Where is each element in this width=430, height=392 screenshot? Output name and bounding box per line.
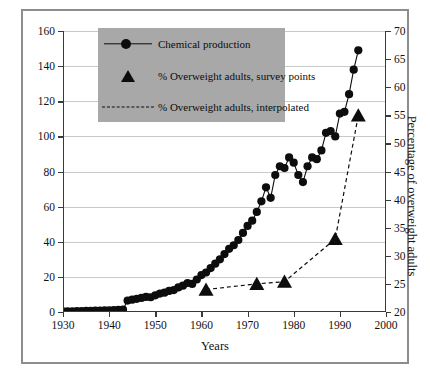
data-point-marker <box>354 46 362 54</box>
axis-tick-label: 60 <box>394 81 406 93</box>
data-point-marker <box>239 229 247 237</box>
legend-label-interpolated: % Overweight adults, interpolated <box>158 101 309 113</box>
axis-tick-label: 45 <box>394 166 406 178</box>
axis-tick-label: 20 <box>44 271 56 283</box>
data-point-marker <box>299 178 307 186</box>
axis-tick <box>58 277 63 278</box>
axis-tick <box>386 200 391 201</box>
axis-tick-label: 25 <box>394 278 406 290</box>
data-point-marker <box>253 208 261 216</box>
axis-tick-label: 30 <box>394 250 406 262</box>
figure-container: Synthetic Chemical Production (billion k… <box>0 0 430 392</box>
axis-tick <box>386 284 391 285</box>
legend-item-interpolated: % Overweight adults, interpolated <box>98 91 285 122</box>
axis-tick <box>386 312 387 317</box>
x-axis-line <box>63 311 386 312</box>
data-point-marker <box>262 183 270 191</box>
axis-tick-label: 65 <box>394 53 406 65</box>
axis-tick <box>58 136 63 137</box>
data-point-marker <box>290 159 298 167</box>
axis-tick <box>58 101 63 102</box>
data-point-marker <box>280 164 288 172</box>
data-point-marker <box>340 108 348 116</box>
legend-label-survey-points: % Overweight adults, survey points <box>158 70 315 82</box>
data-point-marker <box>234 236 242 244</box>
survey-point-marker <box>351 108 366 121</box>
axis-tick <box>109 312 110 317</box>
legend-item-chemical-production: Chemical production <box>98 28 285 59</box>
axis-tick <box>155 312 156 317</box>
axis-tick <box>294 312 295 317</box>
axis-tick <box>386 172 391 173</box>
legend-label-chemical-production: Chemical production <box>158 38 251 50</box>
legend: Chemical production % Overweight adults,… <box>98 28 285 122</box>
axis-tick <box>63 312 64 317</box>
data-point-marker <box>271 171 279 179</box>
data-point-marker <box>294 171 302 179</box>
axis-tick-label: 0 <box>49 306 55 318</box>
axis-tick-label: 1960 <box>190 319 213 331</box>
overweight-survey-markers <box>199 108 366 295</box>
axis-tick <box>58 31 63 32</box>
axis-tick-label: 1930 <box>52 319 75 331</box>
data-point-marker <box>350 66 358 74</box>
axis-tick-label: 1980 <box>282 319 305 331</box>
axis-tick <box>386 256 391 257</box>
axis-tick-label: 160 <box>38 25 55 37</box>
axis-tick <box>386 59 391 60</box>
axis-tick <box>386 115 391 116</box>
axis-tick-label: 80 <box>44 166 56 178</box>
data-point-marker <box>257 197 265 205</box>
axis-tick-label: 35 <box>394 222 406 234</box>
data-point-marker <box>345 90 353 98</box>
legend-item-survey-points: % Overweight adults, survey points <box>98 60 285 91</box>
axis-tick-label: 20 <box>394 306 406 318</box>
axis-tick-label: 55 <box>394 109 406 121</box>
axis-tick-label: 70 <box>394 25 406 37</box>
axis-tick <box>248 312 249 317</box>
data-point-marker <box>317 146 325 154</box>
axis-tick <box>201 312 202 317</box>
axis-tick <box>58 242 63 243</box>
axis-tick <box>386 228 391 229</box>
legend-key-line-with-circle <box>98 28 158 59</box>
axis-tick <box>386 31 391 32</box>
axis-tick <box>58 66 63 67</box>
axis-tick-label: 2000 <box>375 319 398 331</box>
axis-tick <box>340 312 341 317</box>
left-axis-line <box>63 31 64 312</box>
axis-tick-label: 40 <box>394 194 406 206</box>
x-axis-title: Years <box>201 339 229 354</box>
data-point-marker <box>267 194 275 202</box>
axis-tick <box>386 87 391 88</box>
legend-key-triangle <box>98 60 158 91</box>
axis-tick-label: 100 <box>38 130 55 142</box>
axis-tick-label: 120 <box>38 95 55 107</box>
axis-tick-label: 1940 <box>98 319 121 331</box>
axis-tick-label: 1950 <box>144 319 167 331</box>
survey-point-marker <box>328 232 343 245</box>
axis-tick-label: 50 <box>394 137 406 149</box>
axis-tick-label: 60 <box>44 201 56 213</box>
axis-tick-label: 140 <box>38 60 55 72</box>
data-point-marker <box>331 132 339 140</box>
axis-tick-label: 1990 <box>328 319 351 331</box>
data-point-marker <box>303 162 311 170</box>
data-point-marker <box>313 155 321 163</box>
axis-tick-label: 1970 <box>236 319 259 331</box>
axis-tick <box>58 172 63 173</box>
survey-point-marker <box>199 282 214 295</box>
axis-tick-label: 40 <box>44 236 56 248</box>
legend-key-dashed-line <box>98 91 158 122</box>
axis-tick <box>58 207 63 208</box>
data-point-marker <box>248 217 256 225</box>
overweight-interpolated-line <box>206 115 358 289</box>
axis-tick <box>386 143 391 144</box>
